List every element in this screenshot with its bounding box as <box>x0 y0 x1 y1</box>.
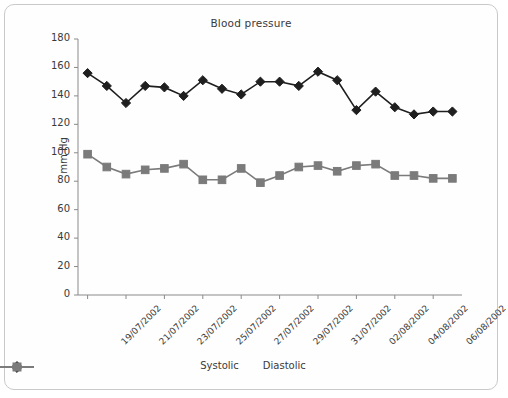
y-tick-label: 20 <box>36 260 70 271</box>
legend-item-systolic[interactable]: Systolic <box>200 360 239 371</box>
legend-item-diastolic[interactable]: Diastolic <box>263 360 306 371</box>
chart-legend: SystolicDiastolic <box>0 360 506 371</box>
y-tick-label: 0 <box>36 288 70 299</box>
legend-label: Diastolic <box>263 360 306 371</box>
y-tick-label: 120 <box>36 117 70 128</box>
y-tick-label: 160 <box>36 60 70 71</box>
legend-label: Systolic <box>200 360 239 371</box>
y-tick-label: 100 <box>36 146 70 157</box>
y-tick-label: 80 <box>36 174 70 185</box>
square-marker-icon <box>0 360 34 374</box>
y-tick-label: 60 <box>36 203 70 214</box>
y-tick-label: 40 <box>36 231 70 242</box>
y-tick-label: 180 <box>36 32 70 43</box>
y-tick-label: 140 <box>36 89 70 100</box>
